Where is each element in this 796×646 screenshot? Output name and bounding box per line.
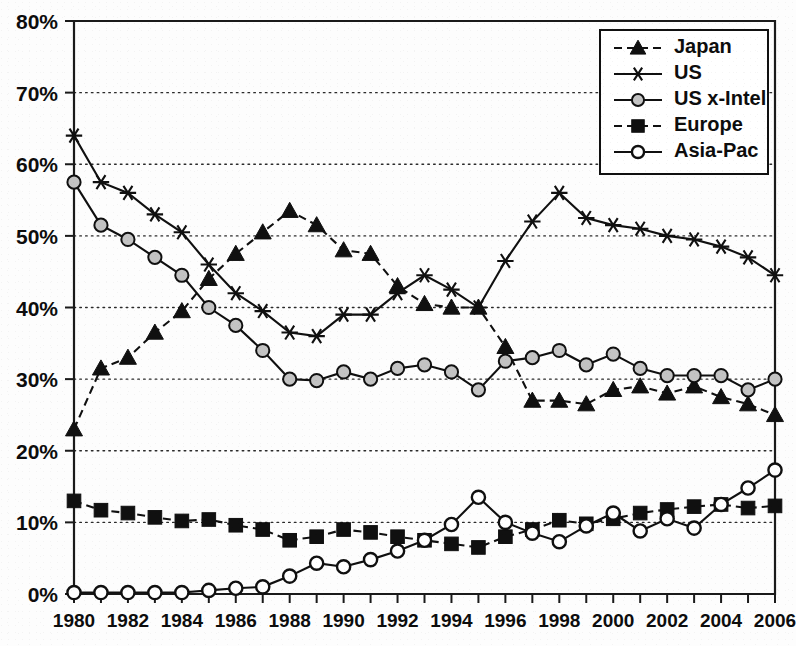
series-markers [67, 176, 781, 397]
marker-triangle [416, 295, 433, 310]
marker-circle [67, 176, 80, 189]
marker-circle [175, 586, 188, 599]
marker-square [741, 501, 755, 515]
x-tick-label: 1994 [430, 610, 473, 631]
marker-circle [418, 358, 431, 371]
legend-item-label: Asia-Pac [674, 139, 759, 161]
marker-circle [94, 586, 107, 599]
y-tick-label: 30% [16, 368, 58, 391]
marker-circle [553, 535, 566, 548]
y-tick-label: 50% [16, 225, 58, 248]
marker-circle [661, 512, 674, 525]
y-tick-label: 20% [16, 440, 58, 463]
marker-square [256, 523, 270, 537]
x-tick-label: 2006 [754, 610, 796, 631]
x-tick-label: 1980 [53, 610, 95, 631]
marker-star [497, 254, 513, 268]
marker-circle [283, 373, 296, 386]
y-tick-label: 80% [16, 10, 58, 33]
marker-circle [741, 383, 754, 396]
marker-triangle [200, 270, 217, 285]
marker-square [445, 537, 459, 551]
marker-triangle [281, 202, 298, 217]
marker-circle [391, 362, 404, 375]
marker-square [283, 533, 297, 547]
chart-container: 0%10%20%30%40%50%60%70%80%19801982198419… [0, 0, 796, 646]
marker-circle [661, 369, 674, 382]
marker-circle [121, 586, 134, 599]
marker-square [768, 499, 782, 513]
marker-circle [634, 524, 647, 537]
marker-square [633, 506, 647, 520]
y-tick-label: 0% [28, 583, 59, 606]
marker-circle [714, 498, 727, 511]
marker-circle [418, 534, 431, 547]
marker-square [391, 530, 405, 544]
y-tick-label: 40% [16, 297, 58, 320]
series-line [74, 470, 775, 592]
marker-circle [229, 319, 242, 332]
marker-circle [472, 383, 485, 396]
marker-circle [526, 527, 539, 540]
marker-square [67, 494, 81, 508]
marker-triangle [254, 224, 271, 239]
marker-circle [337, 560, 350, 573]
marker-star [605, 218, 621, 232]
marker-circle [499, 355, 512, 368]
marker-circle [607, 506, 620, 519]
x-tick-label: 1992 [376, 610, 418, 631]
marker-circle [768, 373, 781, 386]
series-us-x-intel [67, 176, 781, 397]
legend-item-label: Europe [674, 113, 743, 135]
marker-star [713, 240, 729, 254]
marker-star [686, 232, 702, 246]
marker-circle [632, 146, 644, 158]
marker-square [229, 518, 243, 532]
marker-star [632, 222, 648, 236]
marker-circle [202, 584, 215, 597]
marker-circle [337, 365, 350, 378]
marker-triangle [497, 338, 514, 353]
marker-square [175, 514, 189, 528]
y-tick-label: 60% [16, 153, 58, 176]
x-tick-label: 2002 [646, 610, 688, 631]
marker-triangle [335, 242, 352, 257]
marker-square [632, 120, 645, 133]
y-tick-label: 70% [16, 82, 58, 105]
marker-circle [634, 362, 647, 375]
marker-triangle [66, 421, 83, 436]
marker-circle [768, 463, 781, 476]
marker-circle [310, 374, 323, 387]
marker-triangle [443, 299, 460, 314]
x-tick-label: 1984 [161, 610, 204, 631]
marker-triangle [605, 381, 622, 396]
x-tick-label: 1986 [215, 610, 257, 631]
x-tick-label: 1990 [322, 610, 364, 631]
marker-triangle [308, 217, 325, 232]
marker-triangle [146, 324, 163, 339]
y-axis: 0%10%20%30%40%50%60%70%80% [16, 10, 74, 606]
x-tick-label: 1998 [538, 610, 580, 631]
marker-circle [256, 580, 269, 593]
marker-square [202, 513, 216, 527]
legend-item-label: US x-Intel [674, 87, 766, 109]
marker-circle [148, 586, 161, 599]
legend: JapanUSUS x-IntelEuropeAsia-Pac [600, 30, 768, 174]
marker-square [310, 530, 324, 544]
x-tick-label: 1988 [269, 610, 311, 631]
marker-circle [229, 582, 242, 595]
marker-star [659, 229, 675, 243]
marker-circle [632, 94, 644, 106]
marker-square [364, 526, 378, 540]
x-axis: 1980198219841986198819901992199419961998… [53, 594, 796, 631]
marker-circle [94, 219, 107, 232]
marker-circle [256, 344, 269, 357]
marker-circle [580, 358, 593, 371]
marker-circle [445, 518, 458, 531]
marker-circle [67, 586, 80, 599]
y-tick-label: 10% [16, 511, 58, 534]
marker-triangle [659, 385, 676, 400]
marker-circle [472, 491, 485, 504]
x-tick-label: 2000 [592, 610, 634, 631]
legend-item-label: Japan [674, 35, 732, 57]
